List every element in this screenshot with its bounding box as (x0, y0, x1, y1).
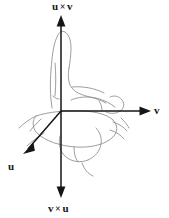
thumb-tip (65, 32, 71, 68)
label-u: u (8, 161, 15, 172)
figure-canvas (0, 0, 169, 218)
hand-sketch (19, 31, 129, 176)
curled-finger-tip (82, 163, 93, 176)
palm-upper-edge (36, 111, 113, 120)
axes-group (28, 22, 145, 192)
wrist-crease (30, 119, 41, 131)
thumb-base-fold (53, 96, 59, 99)
thumb-right-outline (68, 68, 106, 103)
palm-outline (33, 116, 117, 147)
axis-arrowheads (23, 15, 151, 198)
thumb-crease (55, 63, 56, 96)
label-u-cross-v: u×v (52, 1, 73, 12)
curled-finger-3 (74, 147, 78, 162)
label-v: v (154, 105, 160, 116)
index-finger-top (71, 97, 115, 107)
index-finger-knuckle (110, 96, 124, 111)
label-u-cross-v-left: u (52, 0, 59, 12)
thumb-left-outline (50, 31, 65, 108)
cross-product-figure: u×v v u v×u (0, 0, 169, 218)
right-arrowhead (140, 107, 152, 116)
up-arrowhead (57, 15, 66, 27)
label-u-cross-v-right: v (67, 0, 73, 12)
label-v-cross-u: v×u (48, 203, 69, 214)
label-v-cross-u-right: u (62, 202, 69, 214)
knuckle-tick-1 (99, 101, 102, 110)
down-arrowhead (57, 187, 66, 199)
curled-finger-2 (88, 128, 101, 160)
cross-product-icon: × (59, 1, 67, 12)
